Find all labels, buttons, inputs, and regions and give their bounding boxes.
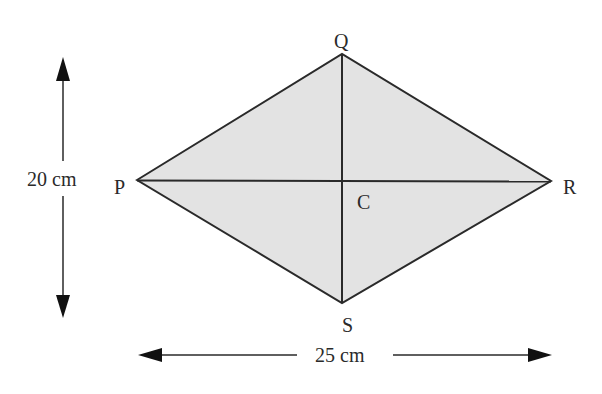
arrowhead-down-icon xyxy=(56,295,70,318)
vertex-label-s: S xyxy=(342,314,353,336)
rhombus-diagram: Q P R S C 20 cm 25 cm xyxy=(0,0,602,394)
center-label-c: C xyxy=(357,191,370,213)
vertex-label-q: Q xyxy=(334,30,349,52)
vertex-label-p: P xyxy=(114,176,125,198)
diagonal-pr xyxy=(137,181,551,182)
vertical-dimension-label: 20 cm xyxy=(27,168,77,190)
arrowhead-left-icon xyxy=(138,348,162,362)
arrowhead-right-icon xyxy=(528,348,552,362)
rhombus-shape xyxy=(137,54,551,303)
arrowhead-up-icon xyxy=(56,57,70,81)
horizontal-dimension-label: 25 cm xyxy=(315,344,365,366)
vertex-label-r: R xyxy=(563,176,577,198)
